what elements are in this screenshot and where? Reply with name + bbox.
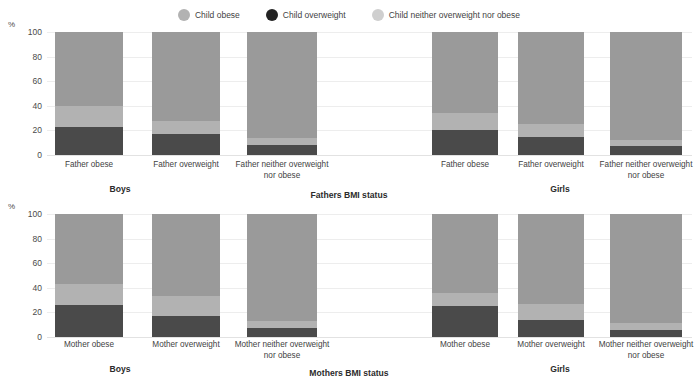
bar-segment xyxy=(55,32,123,106)
bar-segment xyxy=(55,305,123,337)
plot-area-mothers: 100806040200Mother obeseMother overweigh… xyxy=(0,214,698,337)
bar-segment xyxy=(518,304,584,320)
y-axis-tick: 40 xyxy=(0,284,42,293)
gridline xyxy=(47,239,692,240)
bar-segment xyxy=(152,214,220,296)
bar-segment xyxy=(55,106,123,127)
bar-segment xyxy=(432,293,498,307)
bar-segment xyxy=(518,214,584,304)
gridline xyxy=(47,106,692,107)
bar-segment xyxy=(247,145,317,155)
stacked-bar[interactable] xyxy=(432,214,498,337)
bar-segment xyxy=(610,32,682,140)
y-axis-tick: 20 xyxy=(0,126,42,135)
bar-segment xyxy=(518,32,584,124)
bar-segment xyxy=(518,320,584,337)
stacked-bar[interactable] xyxy=(152,32,220,155)
bar-segment xyxy=(152,316,220,337)
stacked-bar[interactable] xyxy=(518,32,584,155)
stacked-bar[interactable] xyxy=(55,32,123,155)
y-axis-tick: 60 xyxy=(0,77,42,86)
bar-segment xyxy=(55,214,123,284)
bar-segment xyxy=(55,127,123,155)
bar-segment xyxy=(432,306,498,337)
bar-segment xyxy=(610,330,682,337)
gridline xyxy=(47,214,692,215)
y-axis-tick: 80 xyxy=(0,52,42,61)
axis-baseline xyxy=(47,155,692,156)
x-axis-category-label: Father neither overweight nor obese xyxy=(596,160,696,181)
bar-segment xyxy=(432,130,498,155)
stacked-bar[interactable] xyxy=(55,214,123,337)
bar-segment xyxy=(432,113,498,130)
bar-segment xyxy=(432,32,498,113)
gridline xyxy=(47,32,692,33)
x-axis-category-label: Father overweight xyxy=(504,160,598,171)
x-axis-title-fathers: Fathers BMI status xyxy=(0,190,698,200)
bar-segment xyxy=(518,137,584,155)
x-axis-category-label: Mother neither overweight nor obese xyxy=(596,340,696,361)
x-axis-title-mothers: Mothers BMI status xyxy=(0,368,698,378)
y-axis-tick: 60 xyxy=(0,259,42,268)
bar-segment xyxy=(247,328,317,337)
x-axis-category-label: Father overweight xyxy=(138,160,234,171)
y-axis-tick: 0 xyxy=(0,151,42,160)
y-axis-tick: 40 xyxy=(0,102,42,111)
stacked-bar[interactable] xyxy=(432,32,498,155)
gridline xyxy=(47,312,692,313)
plot-area-fathers: 100806040200Father obeseFather overweigh… xyxy=(0,32,698,155)
bar-segment xyxy=(610,214,682,323)
bar-segment xyxy=(247,321,317,328)
y-axis-tick: 100 xyxy=(0,210,42,219)
y-axis-tick: 100 xyxy=(0,28,42,37)
axis-baseline xyxy=(47,337,692,338)
x-axis-category-label: Mother neither overweight nor obese xyxy=(233,340,331,361)
bar-segment xyxy=(152,296,220,316)
x-axis-category-label: Mother overweight xyxy=(138,340,234,351)
stacked-bar[interactable] xyxy=(518,214,584,337)
stacked-bar[interactable] xyxy=(247,214,317,337)
x-axis-category-label: Mother obese xyxy=(41,340,137,351)
bar-segment xyxy=(152,32,220,121)
x-axis-category-label: Mother overweight xyxy=(504,340,598,351)
gridline xyxy=(47,81,692,82)
bar-segment xyxy=(247,32,317,138)
bar-segment xyxy=(247,138,317,145)
bar-segment xyxy=(152,121,220,135)
chart-panel-fathers: % 100806040200Father obeseFather overwei… xyxy=(0,18,698,208)
x-axis-category-label: Father neither overweight nor obese xyxy=(233,160,331,181)
chart-panel-mothers: % 100806040200Mother obeseMother overwei… xyxy=(0,200,698,385)
bar-segment xyxy=(247,214,317,321)
x-axis-category-label: Father obese xyxy=(418,160,512,171)
gridline xyxy=(47,130,692,131)
bar-segment xyxy=(610,146,682,155)
bar-segment xyxy=(55,284,123,305)
y-axis-tick: 80 xyxy=(0,234,42,243)
stacked-bar[interactable] xyxy=(247,32,317,155)
gridline xyxy=(47,57,692,58)
x-axis-category-label: Mother obese xyxy=(418,340,512,351)
gridline xyxy=(47,288,692,289)
stacked-bar[interactable] xyxy=(610,214,682,337)
stacked-bar[interactable] xyxy=(610,32,682,155)
y-axis-tick: 0 xyxy=(0,333,42,342)
x-axis-category-label: Father obese xyxy=(41,160,137,171)
bar-segment xyxy=(152,134,220,155)
bar-segment xyxy=(518,124,584,136)
stacked-bar[interactable] xyxy=(152,214,220,337)
gridline xyxy=(47,263,692,264)
y-axis-tick: 20 xyxy=(0,308,42,317)
bar-segment xyxy=(432,214,498,293)
